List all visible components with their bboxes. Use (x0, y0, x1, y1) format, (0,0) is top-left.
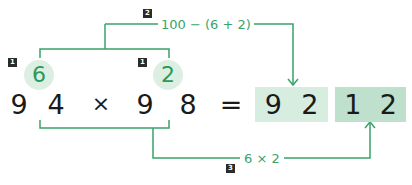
step1-badge-right: 1 (138, 58, 147, 67)
step3-formula: 6 × 2 (241, 152, 283, 165)
left-operand-ones: 4 (47, 91, 64, 118)
top-bracket (40, 49, 169, 58)
bottom-bracket (40, 120, 169, 128)
result-digit-2: 2 (301, 91, 318, 118)
step3-line-right (284, 123, 370, 158)
right-operand-tens: 9 (136, 91, 153, 118)
right-operand-ones: 8 (179, 91, 196, 118)
result-box-hundreds: 9 2 (255, 87, 328, 122)
step3-badge: 3 (226, 164, 235, 173)
result-digit-4: 2 (380, 91, 397, 118)
complement-circle-right: 2 (153, 60, 183, 90)
step2-line-right (250, 24, 293, 84)
step2-badge: 2 (143, 9, 152, 18)
step2-formula: 100 − (6 + 2) (158, 18, 254, 31)
result-digit-1: 9 (265, 91, 282, 118)
equals-sign: = (220, 91, 243, 118)
multiplication-diagram: 2 100 − (6 + 2) 1 1 6 2 9 4 × 9 8 = 9 2 … (0, 0, 412, 185)
complement-circle-left: 6 (24, 60, 54, 90)
result-box-units: 1 2 (335, 87, 406, 122)
step3-line-left (153, 128, 240, 158)
step1-badge-left: 1 (8, 58, 17, 67)
complement-right-value: 2 (161, 64, 175, 86)
multiply-operator: × (92, 93, 110, 115)
complement-left-value: 6 (32, 64, 46, 86)
left-operand-tens: 9 (10, 91, 27, 118)
result-digit-3: 1 (344, 91, 361, 118)
